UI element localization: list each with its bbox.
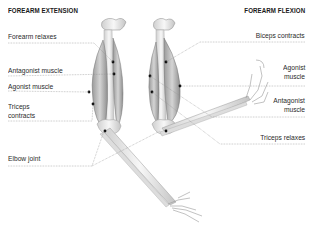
arm-anatomy-illustration: [0, 0, 313, 227]
flexion-arm: [149, 18, 268, 136]
